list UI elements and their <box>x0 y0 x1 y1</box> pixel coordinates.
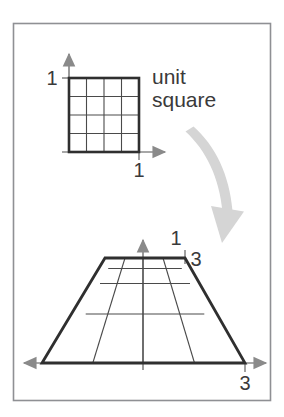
caption-line-1: unit <box>152 65 186 88</box>
trapezoid-y-label-3: 3 <box>190 248 201 270</box>
transformation-diagram: 1 1 unit square <box>0 0 284 417</box>
figure-root: 1 1 unit square <box>0 0 284 417</box>
unit-square-x-label: 1 <box>133 159 144 181</box>
unit-square-y-label: 1 <box>46 67 57 89</box>
caption-line-2: square <box>152 88 216 111</box>
trapezoid-x-label: 3 <box>239 372 250 394</box>
trapezoid-y-label-1: 1 <box>170 227 181 249</box>
